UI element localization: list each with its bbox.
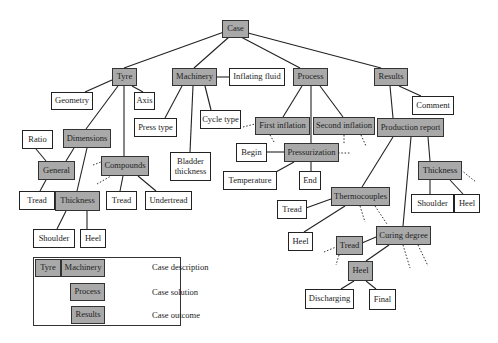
case-structure-diagram: Case Tyre Machinery Inflating fluid Proc… xyxy=(0,0,498,343)
node-thickness-report: Thickness xyxy=(418,161,462,180)
node-end: End xyxy=(299,171,321,190)
node-tread-thermocouples: Tread xyxy=(277,200,307,219)
legend-label-case-description: Case description xyxy=(152,262,208,272)
node-begin: Begin xyxy=(236,143,267,162)
node-bladder-thickness: Bladder thickness xyxy=(170,152,211,181)
legend-box-results: Results xyxy=(71,306,105,324)
node-case: Case xyxy=(222,20,249,38)
node-tread-curing: Tread xyxy=(336,236,363,255)
legend-box-process: Process xyxy=(70,283,105,301)
node-discharging: Discharging xyxy=(305,289,354,309)
legend-box-tyre: Tyre xyxy=(35,259,61,277)
node-undertread: Undertread xyxy=(145,191,192,210)
node-press-type: Press type xyxy=(134,118,177,137)
node-shoulder-report: Shoulder xyxy=(411,194,454,213)
node-production-report: Production report xyxy=(377,118,444,137)
node-general: General xyxy=(38,161,75,180)
node-heel-tyre: Heel xyxy=(80,229,106,248)
node-heel-report: Heel xyxy=(454,194,480,213)
node-shoulder-tyre: Shoulder xyxy=(33,229,75,248)
legend-label-case-solution: Case solution xyxy=(152,287,198,297)
node-cycle-type: Cycle type xyxy=(200,110,241,129)
legend-label-case-outcome: Case outcome xyxy=(152,310,200,320)
node-dimensions: Dimensions xyxy=(63,129,111,148)
node-final: Final xyxy=(369,289,396,310)
node-process: Process xyxy=(293,68,328,86)
node-tyre: Tyre xyxy=(112,68,137,86)
node-axis: Axis xyxy=(134,92,155,110)
node-inflating-fluid: Inflating fluid xyxy=(229,68,285,86)
node-machinery: Machinery xyxy=(172,68,217,86)
node-results: Results xyxy=(374,68,408,86)
node-curing-degree: Curing degree xyxy=(376,226,431,245)
node-second-inflation: Second inflation xyxy=(313,117,375,135)
node-heel-thermocouples: Heel xyxy=(288,232,313,251)
node-heel-curing: Heel xyxy=(348,261,373,281)
node-tread-compounds: Tread xyxy=(106,191,137,210)
node-first-inflation: First inflation xyxy=(255,117,310,135)
node-pressurization: Pressurization xyxy=(284,143,339,162)
node-thickness-tyre: Thickness xyxy=(55,191,100,211)
node-ratio: Ratio xyxy=(22,130,53,149)
node-geometry: Geometry xyxy=(51,92,93,110)
node-temperature: Temperature xyxy=(223,171,277,190)
node-thermocouples: Thermocouples xyxy=(331,187,390,206)
node-compounds: Compounds xyxy=(101,156,149,176)
legend-box-machinery: Machinery xyxy=(61,259,105,277)
node-tread-general: Tread xyxy=(19,191,55,210)
node-comment: Comment xyxy=(412,96,454,115)
